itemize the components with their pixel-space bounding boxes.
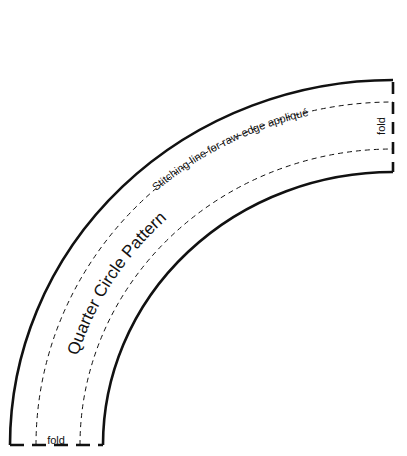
inner-cut-line [103,172,393,445]
pattern-title: Quarter Circle Pattern [63,208,169,358]
outer-cut-line [10,80,393,445]
fold-label-bottom: fold [47,434,65,446]
inner-stitch-line [80,149,393,445]
fold-label-right: fold [375,117,387,135]
quarter-circle-pattern: Stitching line for raw-edge appliqué Qua… [0,0,407,456]
stitch-label: Stitching line for raw-edge appliqué [150,106,310,193]
